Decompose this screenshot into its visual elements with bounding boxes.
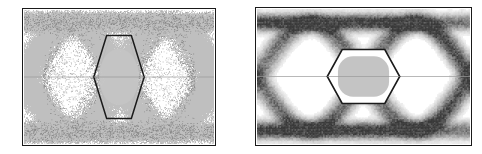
left-eye-diagram-panel xyxy=(22,8,216,146)
right-eye-diagram-panel xyxy=(255,7,472,146)
left-panel-frame xyxy=(22,8,216,146)
figure-root xyxy=(0,0,482,154)
right-panel-frame xyxy=(255,7,472,146)
